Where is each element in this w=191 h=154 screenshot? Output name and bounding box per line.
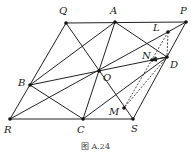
label-D: D xyxy=(170,60,178,70)
point-R xyxy=(8,117,12,121)
label-P: P xyxy=(180,6,187,16)
label-O: O xyxy=(103,73,111,83)
point-M xyxy=(122,106,126,110)
label-C: C xyxy=(77,125,85,135)
point-L xyxy=(166,30,170,34)
label-S: S xyxy=(131,124,138,134)
segment-QP xyxy=(66,22,186,23)
segment-BC xyxy=(30,85,83,119)
point-C xyxy=(81,117,85,121)
point-B xyxy=(28,83,32,87)
label-R: R xyxy=(4,125,12,135)
label-N: N xyxy=(142,51,151,61)
segment-QR xyxy=(10,23,66,119)
label-A: A xyxy=(110,6,117,16)
label-L: L xyxy=(153,23,160,33)
point-S xyxy=(131,117,135,121)
point-O xyxy=(97,69,101,73)
point-A xyxy=(113,20,117,24)
point-P xyxy=(184,20,188,24)
label-M: M xyxy=(109,107,119,117)
figure-canvas xyxy=(0,0,191,154)
geometry-figure: Q A P L N D O B M R C S 图 A.24 xyxy=(0,0,191,154)
segment-CD xyxy=(83,57,167,119)
figure-caption: 图 A.24 xyxy=(0,140,191,151)
label-Q: Q xyxy=(59,6,67,16)
point-Q xyxy=(64,21,68,25)
point-D xyxy=(165,55,169,59)
segment-LD xyxy=(167,32,168,57)
label-B: B xyxy=(18,78,25,88)
